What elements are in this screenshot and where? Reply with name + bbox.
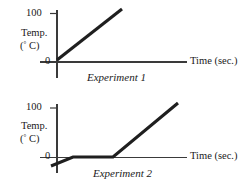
chart-panel-experiment-1: 100 Temp. (° C) 0 Time (sec.) Experiment… <box>0 0 249 94</box>
data-line-experiment-1 <box>57 9 122 60</box>
y-axis-title-experiment-2: Temp. <box>21 121 47 132</box>
x-axis-title-experiment-1: Time (sec.) <box>190 56 237 67</box>
two-panel-temperature-figure: 100 Temp. (° C) 0 Time (sec.) Experiment… <box>0 0 249 188</box>
caption-experiment-1: Experiment 1 <box>87 72 146 83</box>
y-axis-units-experiment-2: (° C) <box>20 134 39 145</box>
y-axis-units-celsius-experiment-2: C) <box>26 133 39 144</box>
y-tick-label-100-experiment-1: 100 <box>26 8 42 19</box>
data-line-experiment-2 <box>51 103 178 166</box>
y-tick-label-0-experiment-2: 0 <box>45 151 50 162</box>
y-axis-title-experiment-1: Temp. <box>21 28 47 39</box>
x-axis-title-experiment-2: Time (sec.) <box>190 151 237 162</box>
chart-panel-experiment-2: 100 Temp. (° C) 0 Time (sec.) Experiment… <box>0 94 249 188</box>
y-axis-units-experiment-1: (° C) <box>20 41 39 52</box>
y-axis-units-celsius-experiment-1: C) <box>26 40 39 51</box>
caption-experiment-2: Experiment 2 <box>93 168 152 179</box>
y-tick-label-100-experiment-2: 100 <box>26 102 42 113</box>
y-tick-label-0-experiment-1: 0 <box>45 56 50 67</box>
